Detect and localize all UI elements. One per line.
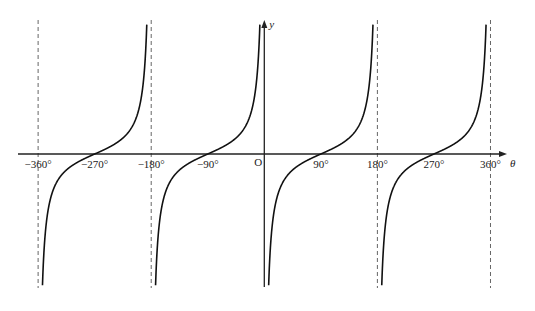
x-tick-label: −270°: [81, 158, 108, 170]
y-axis-label: y: [268, 18, 274, 30]
x-tick-label: −180°: [138, 158, 165, 170]
tan-graph: −360°−270°−180°−90°90°180°270°360° θ y O: [0, 0, 535, 311]
x-axis-label: θ: [510, 157, 516, 169]
x-tick-label: 270°: [423, 158, 444, 170]
x-axis-arrow-icon: [499, 151, 507, 157]
curve-branch: [156, 25, 260, 286]
tick-labels: −360°−270°−180°−90°90°180°270°360°: [25, 158, 501, 170]
origin-label: O: [254, 156, 262, 168]
x-tick-label: 360°: [480, 158, 501, 170]
curve-branch: [42, 25, 146, 286]
x-tick-label: 180°: [367, 158, 388, 170]
y-axis-arrow-icon: [261, 20, 267, 28]
x-tick-label: 90°: [313, 158, 328, 170]
curve-branch: [269, 25, 373, 286]
x-tick-label: −360°: [25, 158, 52, 170]
curve-branch: [382, 25, 486, 286]
x-tick-label: −90°: [197, 158, 219, 170]
